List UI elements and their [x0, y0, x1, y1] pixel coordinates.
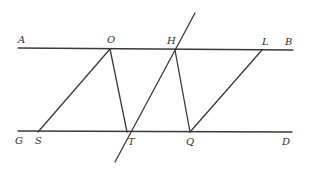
label-D: D — [281, 136, 290, 147]
transversal-TH — [115, 13, 195, 162]
label-L: L — [261, 36, 269, 47]
label-O: O — [107, 34, 115, 45]
segment-HQ — [175, 50, 190, 132]
line-GD — [18, 131, 292, 132]
segment-QL — [190, 50, 262, 132]
label-S: S — [35, 135, 42, 146]
label-A: A — [17, 34, 25, 45]
segment-OS — [38, 49, 110, 132]
geometry-diagram: A O H L B G S T Q D — [0, 0, 310, 171]
label-H: H — [166, 35, 176, 46]
line-AB — [18, 48, 293, 50]
label-G: G — [15, 135, 23, 146]
label-Q: Q — [186, 136, 194, 147]
segment-OT — [110, 49, 127, 132]
label-B: B — [284, 36, 292, 47]
label-T: T — [128, 136, 136, 147]
